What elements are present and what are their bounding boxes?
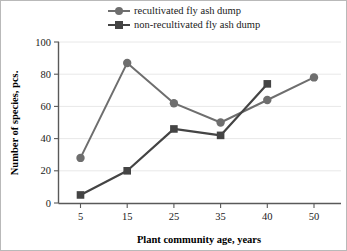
y-tick-label: 80 xyxy=(41,69,52,80)
data-point-square xyxy=(170,125,178,133)
series-line xyxy=(81,63,315,158)
data-point-circle xyxy=(170,99,178,107)
data-point-circle xyxy=(123,59,131,67)
data-point-circle xyxy=(76,154,84,162)
data-point-square xyxy=(123,167,131,175)
y-axis-ticks: 020406080100 xyxy=(35,37,59,209)
x-axis-title: Plant community age, years xyxy=(137,234,261,245)
y-tick-label: 60 xyxy=(41,101,52,112)
y-tick-label: 0 xyxy=(46,198,51,209)
x-tick-label: 35 xyxy=(215,211,226,222)
x-tick-label: 40 xyxy=(262,211,273,222)
y-tick-label: 40 xyxy=(41,133,52,144)
x-axis-ticks: 51525354050 xyxy=(78,203,319,222)
y-tick-label: 100 xyxy=(35,37,51,48)
x-tick-label: 5 xyxy=(78,211,83,222)
chart-svg: 020406080100 51525354050 Number of speci… xyxy=(1,1,347,251)
y-axis-title: Number of species, pcs. xyxy=(9,70,20,175)
x-tick-label: 50 xyxy=(309,211,320,222)
x-tick-label: 25 xyxy=(169,211,180,222)
chart-figure: recultivated fly ash dump non-recultivat… xyxy=(0,0,347,251)
series-non-recultivated xyxy=(77,80,271,199)
data-point-square xyxy=(77,191,85,199)
x-tick-label: 15 xyxy=(122,211,133,222)
y-tick-label: 20 xyxy=(41,165,52,176)
data-point-circle xyxy=(216,118,224,126)
data-point-circle xyxy=(263,96,271,104)
data-point-square xyxy=(217,132,225,140)
plot-area: 020406080100 51525354050 Number of speci… xyxy=(1,1,347,251)
gridlines xyxy=(59,42,341,171)
data-point-square xyxy=(264,80,272,88)
series-layer xyxy=(76,59,318,199)
data-point-circle xyxy=(310,73,318,81)
